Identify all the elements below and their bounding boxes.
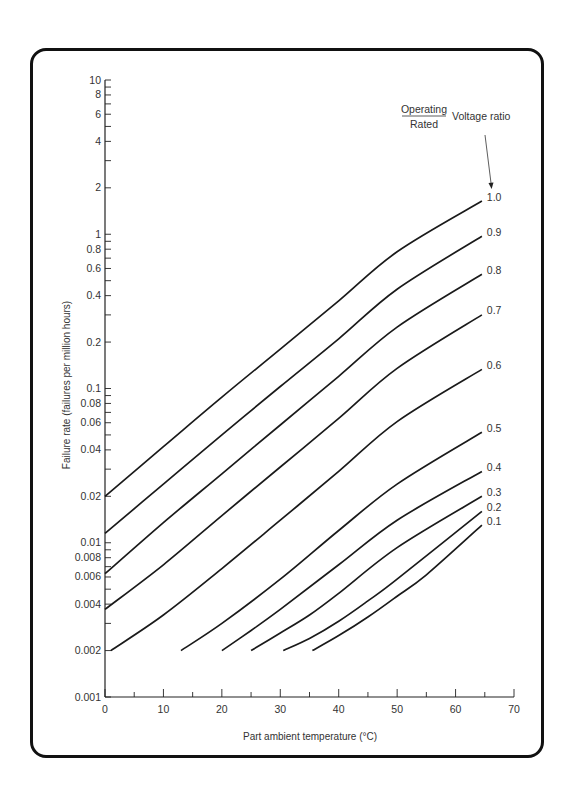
y-tick-label: 10: [89, 74, 101, 86]
curve-0-9: [105, 236, 482, 533]
curve-label-0-5: 0.5: [487, 422, 502, 434]
y-tick-label: 0.01: [81, 536, 102, 548]
y-tick-label: 0.8: [86, 243, 101, 255]
y-tick-label: 0.004: [75, 598, 101, 610]
curve-label-0-8: 0.8: [487, 264, 502, 276]
y-tick-label: 0.08: [81, 397, 102, 409]
legend-arrowhead-icon: [489, 182, 494, 189]
y-tick-label: 1: [95, 228, 101, 240]
x-tick-label: 0: [102, 703, 108, 715]
y-tick-label: 0.006: [75, 570, 101, 582]
curve-label-0-6: 0.6: [487, 359, 502, 371]
curve-label-1-0: 1.0: [487, 191, 502, 203]
y-tick-label: 0.04: [81, 443, 102, 455]
y-tick-label: 6: [95, 108, 101, 120]
y-tick-label: 0.001: [75, 691, 101, 703]
x-tick-label: 30: [274, 703, 286, 715]
x-tick-label: 20: [216, 703, 228, 715]
y-tick-label: 2: [95, 181, 101, 193]
curve-0-5: [181, 432, 482, 650]
x-tick-label: 70: [508, 703, 520, 715]
curve-label-0-9: 0.9: [487, 226, 502, 238]
y-tick-label: 0.4: [86, 289, 101, 301]
curve-label-0-7: 0.7: [487, 304, 502, 316]
failure-rate-chart: 10864210.80.60.40.20.10.080.060.040.020.…: [0, 0, 575, 797]
legend-denominator: Rated: [410, 118, 438, 130]
y-axis-title: Failure rate (failures per million hours…: [61, 301, 72, 469]
y-tick-label: 0.002: [75, 644, 101, 656]
legend: Operating Rated Voltage ratio: [401, 103, 511, 189]
x-tick-label: 40: [333, 703, 345, 715]
x-tick-label: 50: [391, 703, 403, 715]
y-tick-label: 0.008: [75, 551, 101, 563]
y-tick-label: 4: [95, 135, 101, 147]
legend-arrow-line: [485, 135, 491, 183]
curve-labels: 1.00.90.80.70.60.50.40.30.20.1: [487, 191, 502, 527]
y-tick-label: 0.1: [86, 382, 101, 394]
curve-0-8: [105, 274, 482, 573]
curve-label-0-2: 0.2: [487, 501, 502, 513]
axes: [105, 80, 514, 697]
y-tick-label: 0.06: [81, 416, 102, 428]
y-tick-label: 0.6: [86, 262, 101, 274]
legend-suffix: Voltage ratio: [452, 110, 511, 122]
y-tick-label: 0.2: [86, 336, 101, 348]
legend-numerator: Operating: [401, 103, 447, 115]
y-tick-label: 0.02: [81, 490, 102, 502]
curve-0-1: [312, 525, 482, 650]
curves: [105, 201, 482, 650]
y-tick-label: 8: [95, 88, 101, 100]
x-tick-label: 60: [450, 703, 462, 715]
x-tick-label: 10: [158, 703, 170, 715]
curve-label-0-1: 0.1: [487, 515, 502, 527]
curve-0-7: [105, 315, 482, 610]
curve-0-2: [283, 511, 482, 650]
x-axis-ticks: 010203040506070: [102, 689, 520, 715]
x-axis-title: Part ambient temperature (°C): [243, 731, 377, 742]
curve-0-3: [251, 496, 482, 650]
curve-label-0-4: 0.4: [487, 461, 502, 473]
curve-label-0-3: 0.3: [487, 486, 502, 498]
